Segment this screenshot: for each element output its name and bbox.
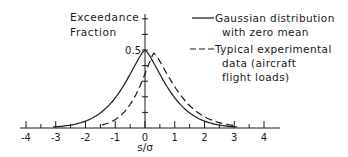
x-tick-label: -4	[21, 132, 31, 143]
x-tick-label: 2	[201, 132, 207, 143]
x-axis-label: s/σ	[137, 141, 153, 153]
x-tick-label: 4	[261, 132, 267, 143]
legend: Gaussian distribution with zero mean Typ…	[190, 12, 335, 83]
x-tick-label: -3	[51, 132, 61, 143]
x-tick-label: -2	[81, 132, 91, 143]
x-tick-label: 1	[172, 132, 178, 143]
x-tick-label: -1	[110, 132, 120, 143]
x-tick-label: 3	[231, 132, 237, 143]
legend-experimental-line2: data (aircraft	[222, 57, 296, 69]
y-axis-label-line2: Fraction	[70, 26, 117, 38]
y-tick-label-0.5: 0.5	[125, 45, 141, 56]
y-axis-label-line1: Exceedance	[70, 11, 139, 23]
legend-gaussian-line1: Gaussian distribution	[215, 12, 335, 24]
legend-experimental-line3: flight loads)	[222, 71, 290, 83]
chart: -4-3-2-101234 0.5 Exceedance Fraction s/…	[0, 0, 348, 157]
legend-experimental-line1: Typical experimental	[214, 43, 332, 55]
legend-gaussian-line2: with zero mean	[222, 26, 309, 38]
